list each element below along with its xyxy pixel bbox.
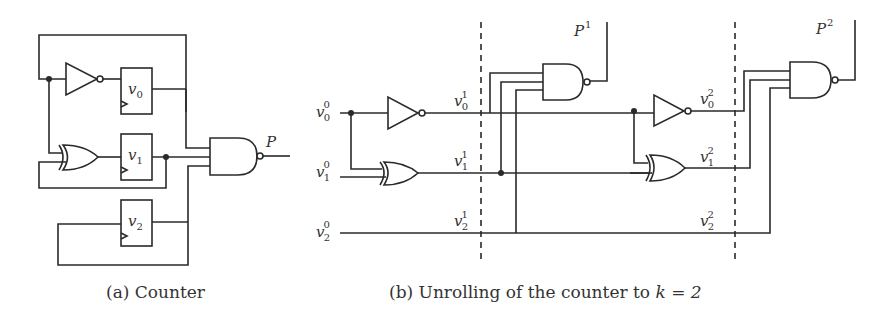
caption-b: (b) Unrolling of the counter to k = 2 xyxy=(389,282,702,302)
xor-back-arc xyxy=(59,145,63,170)
label-v2-1: v12 xyxy=(454,209,468,232)
panel-b-unrolling: v00 v01 v02 v10 v11 v12 P1 xyxy=(316,17,855,302)
label-v0-1: v10 xyxy=(454,89,468,112)
wire-p2-out xyxy=(838,20,855,80)
nand-gate-p2 xyxy=(790,62,831,98)
input-v0-0: v00 xyxy=(316,99,330,123)
not-gate-step1 xyxy=(388,97,418,129)
output-p2-label: P2 xyxy=(815,17,833,38)
junction-dot xyxy=(46,76,52,82)
xor-gate-step2 xyxy=(650,155,685,181)
xor-gate xyxy=(63,145,98,170)
nand-gate xyxy=(210,138,257,175)
caption-a: (a) Counter xyxy=(106,282,206,302)
label-v2-2: v22 xyxy=(700,209,714,232)
junction-dot xyxy=(163,154,169,160)
wire-v0-feedback xyxy=(39,35,186,112)
not-bubble xyxy=(97,76,103,82)
wire-v0-to-xor xyxy=(49,79,62,153)
label-v0-2: v20 xyxy=(700,87,714,110)
input-v1-0: v01 xyxy=(316,159,330,183)
input-v2-0: v02 xyxy=(316,219,330,243)
label-v1-2: v21 xyxy=(700,145,714,168)
xor-gate-step1 xyxy=(384,162,418,185)
panel-a-counter: v0 v1 P v2 (a) Counter xyxy=(39,35,290,302)
output-p1-label: P1 xyxy=(573,19,591,40)
wire-v2-2 xyxy=(765,88,790,233)
not-gate xyxy=(66,63,97,95)
not-gate-step2 xyxy=(654,95,684,126)
label-v1-1: v11 xyxy=(454,149,468,172)
output-p-label: P xyxy=(265,133,277,151)
circuit-figure: v0 v1 P v2 (a) Counter v00 v01 v02 xyxy=(0,0,892,323)
junction-dot xyxy=(498,170,504,176)
nand-gate-p1 xyxy=(543,64,583,100)
wire-p1-out xyxy=(590,22,607,81)
wire-v0-to-nand xyxy=(186,89,210,148)
nand-bubble xyxy=(257,153,263,159)
